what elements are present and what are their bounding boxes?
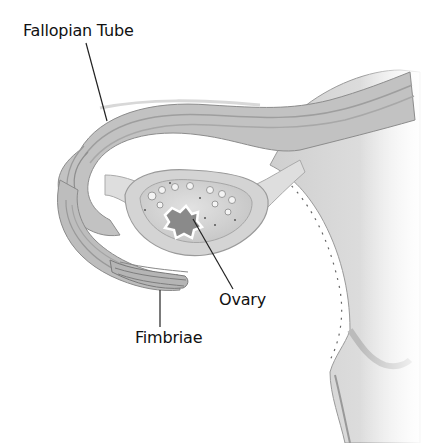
fimbriae-label: Fimbriae: [135, 330, 202, 346]
anatomy-diagram: Fallopian Tube Ovary Fimbriae: [0, 0, 427, 443]
fallopian-tube-label: Fallopian Tube: [23, 23, 134, 39]
illustration: [0, 0, 427, 443]
ovary: [125, 170, 268, 256]
fimbriae: [110, 260, 188, 288]
ovary-label: Ovary: [219, 292, 266, 308]
fallopian-tube-leader: [86, 43, 107, 121]
